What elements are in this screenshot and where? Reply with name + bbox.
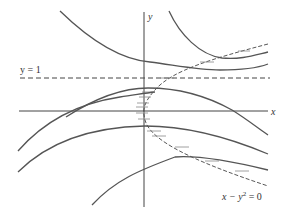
nullcline-label: x − y2 = 0 (221, 190, 262, 202)
solution-curve-2 (169, 11, 268, 58)
nullcline-curve (144, 44, 268, 186)
direction-field-diagram: y x y = 1 x (0, 0, 289, 217)
solution-curve-6 (18, 126, 268, 172)
solution-curve-8 (18, 92, 155, 151)
x-axis-label: x (270, 106, 276, 117)
y-axis-label: y (147, 11, 153, 22)
asymptote-label: y = 1 (20, 64, 41, 75)
solution-curve-1 (60, 11, 268, 70)
solution-curves (18, 11, 268, 205)
